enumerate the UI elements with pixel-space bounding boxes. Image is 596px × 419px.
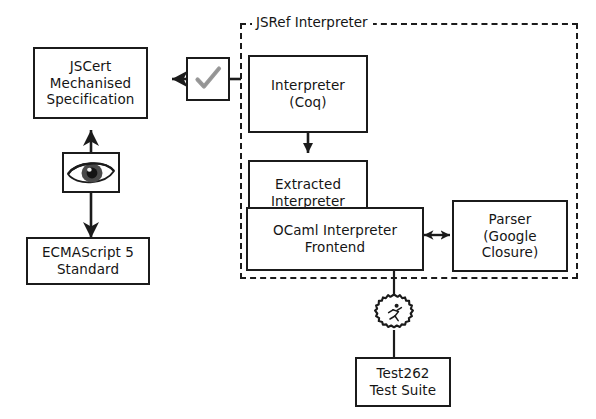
node-ecmascript-5-standard[interactable]: ECMAScript 5 Standard	[26, 237, 150, 285]
eye-icon	[66, 158, 116, 188]
architecture-diagram: JSRef Interpreter	[0, 0, 596, 419]
running-person-gear-icon	[374, 293, 414, 333]
node-jscert-label: JSCert Mechanised Specification	[44, 58, 138, 108]
check-mark-icon-box[interactable]	[186, 57, 230, 101]
node-test262-label: Test262 Test Suite	[367, 365, 439, 398]
jsref-interpreter-group-label: JSRef Interpreter	[252, 16, 373, 30]
node-interpreter-coq[interactable]: Interpreter (Coq)	[248, 55, 368, 133]
node-parser-label: Parser (Google Closure)	[479, 211, 542, 261]
node-interpreter-coq-label: Interpreter (Coq)	[268, 77, 348, 110]
eye-icon-box[interactable]	[62, 152, 120, 193]
node-ocaml-interpreter-frontend[interactable]: OCaml Interpreter Frontend	[246, 207, 424, 271]
check-mark-icon	[193, 64, 223, 94]
node-test262-test-suite[interactable]: Test262 Test Suite	[355, 357, 451, 407]
node-parser-google-closure[interactable]: Parser (Google Closure)	[452, 200, 568, 272]
running-person-gear-icon-box[interactable]	[374, 293, 414, 333]
node-ecmascript-label: ECMAScript 5 Standard	[39, 244, 137, 277]
node-ocaml-frontend-label: OCaml Interpreter Frontend	[270, 222, 400, 255]
node-jscert-mechanised-specification[interactable]: JSCert Mechanised Specification	[33, 47, 148, 119]
